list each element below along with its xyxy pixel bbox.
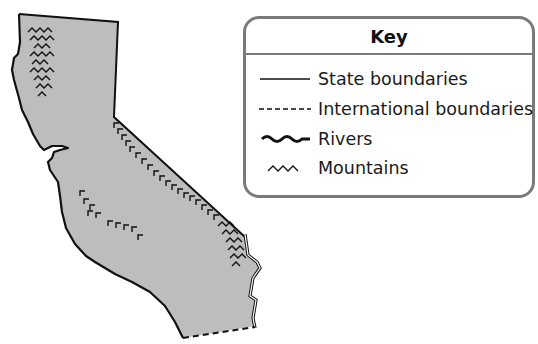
key-item-state-boundaries: State boundaries <box>246 65 468 93</box>
key-title: Key <box>246 19 532 55</box>
key-label: Mountains <box>318 158 409 178</box>
california-land <box>12 14 260 338</box>
key-label: State boundaries <box>318 69 468 89</box>
wavy-line-icon <box>258 129 312 149</box>
dashed-line-icon <box>258 99 312 119</box>
map-key: Key State boundaries International bound… <box>243 16 535 198</box>
key-item-international-boundaries: International boundaries <box>246 95 533 123</box>
key-label: International boundaries <box>318 99 533 119</box>
key-label: Rivers <box>318 129 372 149</box>
key-item-rivers: Rivers <box>246 125 372 153</box>
key-item-mountains: Mountains <box>246 154 409 182</box>
mountain-icon <box>258 158 312 178</box>
solid-line-icon <box>258 69 312 89</box>
